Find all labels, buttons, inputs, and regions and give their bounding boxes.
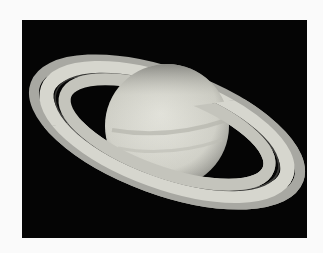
photo-frame [22,20,307,238]
saturn-image [22,20,307,238]
